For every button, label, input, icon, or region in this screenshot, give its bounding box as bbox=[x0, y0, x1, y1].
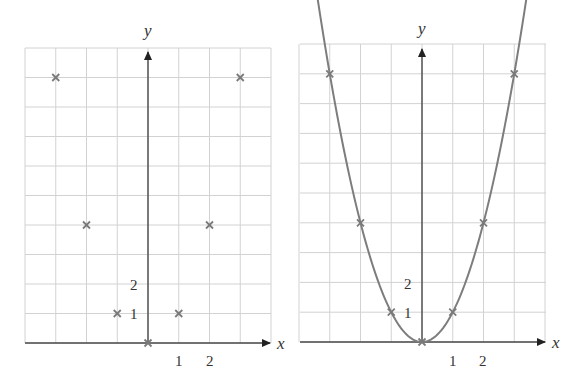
left-y-tick-2: 2 bbox=[130, 277, 138, 293]
right-x-tick-1: 1 bbox=[449, 353, 457, 369]
left-y-tick-1: 1 bbox=[130, 306, 138, 322]
right-y-tick-2: 2 bbox=[404, 276, 412, 292]
left-x-axis-label: x bbox=[276, 334, 285, 353]
left-y-axis-label: y bbox=[142, 21, 152, 40]
figure: y x 1 2 1 2 y x 1 2 1 2 bbox=[0, 0, 588, 386]
right-y-tick-1: 1 bbox=[404, 305, 412, 321]
right-x-axis-label: x bbox=[551, 333, 560, 352]
left-graph: y x 1 2 1 2 bbox=[25, 21, 285, 369]
left-x-tick-2: 2 bbox=[206, 353, 214, 369]
left-x-tick-1: 1 bbox=[175, 353, 183, 369]
right-graph: y x 1 2 1 2 bbox=[299, 0, 560, 369]
right-x-tick-2: 2 bbox=[479, 353, 487, 369]
right-y-axis-label: y bbox=[416, 19, 426, 38]
